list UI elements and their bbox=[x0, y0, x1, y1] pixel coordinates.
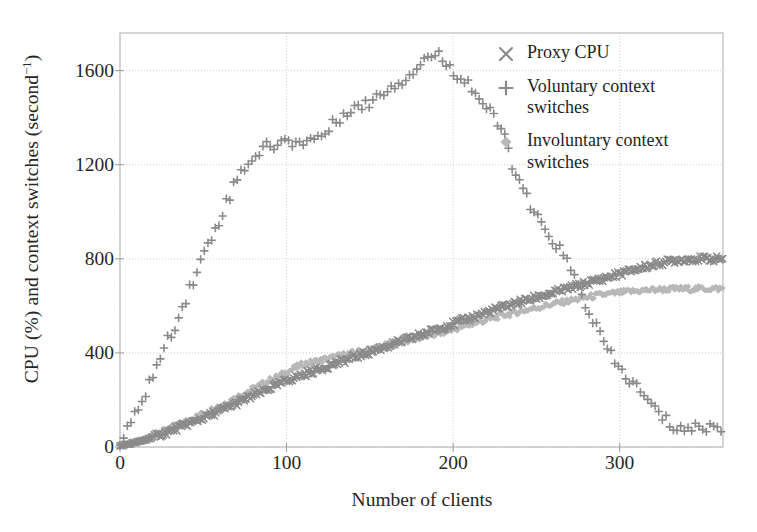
marker-plus bbox=[479, 100, 486, 107]
chart-legend: Proxy CPUVoluntary contextswitchesInvolu… bbox=[495, 42, 745, 185]
legend-label-line2: switches bbox=[527, 97, 655, 118]
marker-plus bbox=[171, 327, 178, 334]
legend-marker-plus-icon bbox=[495, 76, 525, 98]
marker-plus bbox=[190, 282, 197, 289]
marker-plus bbox=[677, 422, 684, 429]
marker-plus bbox=[124, 422, 131, 429]
marker-plus bbox=[552, 245, 559, 252]
marker-plus bbox=[443, 63, 450, 70]
marker-plus bbox=[384, 88, 391, 95]
marker-plus bbox=[256, 152, 263, 159]
marker-plus bbox=[160, 344, 167, 351]
marker-plus bbox=[600, 338, 607, 345]
marker-plus bbox=[410, 71, 417, 78]
marker-plus bbox=[596, 328, 603, 335]
legend-label-line2: switches bbox=[527, 152, 668, 173]
marker-plus bbox=[435, 48, 442, 55]
marker-plus bbox=[417, 61, 424, 68]
marker-plus bbox=[545, 233, 552, 240]
legend-item: Proxy CPU bbox=[495, 42, 745, 64]
marker-plus bbox=[607, 347, 614, 354]
marker-plus bbox=[193, 269, 200, 276]
marker-plus bbox=[347, 109, 354, 116]
marker-plus bbox=[281, 135, 288, 142]
series-proxy-cpu bbox=[117, 253, 726, 449]
legend-label: Proxy CPU bbox=[525, 42, 610, 63]
marker-diamond bbox=[501, 137, 512, 148]
legend-label: Involuntary contextswitches bbox=[525, 130, 668, 172]
marker-plus bbox=[278, 137, 285, 144]
series-involuntary-context-switches bbox=[117, 283, 726, 449]
marker-plus bbox=[549, 240, 556, 247]
marker-plus bbox=[637, 388, 644, 395]
marker-plus bbox=[684, 424, 691, 431]
marker-plus bbox=[487, 104, 494, 111]
marker-plus bbox=[135, 406, 142, 413]
marker-plus bbox=[476, 95, 483, 102]
marker-plus bbox=[241, 167, 248, 174]
marker-plus bbox=[219, 212, 226, 219]
marker-plus bbox=[582, 304, 589, 311]
marker-plus bbox=[252, 153, 259, 160]
marker-plus bbox=[127, 419, 134, 426]
marker-plus bbox=[439, 58, 446, 65]
marker-plus bbox=[640, 392, 647, 399]
marker-plus bbox=[274, 142, 281, 149]
marker-plus bbox=[428, 54, 435, 61]
marker-plus bbox=[604, 345, 611, 352]
legend-label-line1: Involuntary context bbox=[527, 130, 668, 151]
marker-plus bbox=[644, 396, 651, 403]
marker-plus bbox=[432, 52, 439, 59]
marker-plus bbox=[175, 314, 182, 321]
marker-plus bbox=[157, 355, 164, 362]
marker-plus bbox=[659, 416, 666, 423]
marker-plus bbox=[259, 143, 266, 150]
marker-plus bbox=[622, 375, 629, 382]
legend-marker-glyph bbox=[501, 137, 512, 148]
marker-plus bbox=[395, 80, 402, 87]
legend-item: Involuntary contextswitches bbox=[495, 130, 745, 172]
marker-plus bbox=[688, 427, 695, 434]
marker-plus bbox=[681, 428, 688, 435]
marker-plus bbox=[457, 75, 464, 82]
marker-plus bbox=[468, 88, 475, 95]
legend-label-line1: Voluntary context bbox=[527, 76, 655, 97]
marker-plus bbox=[263, 138, 270, 145]
marker-plus bbox=[541, 226, 548, 233]
marker-plus bbox=[585, 310, 592, 317]
marker-plus bbox=[131, 408, 138, 415]
marker-plus bbox=[142, 393, 149, 400]
legend-marker-glyph bbox=[500, 48, 512, 60]
marker-plus bbox=[413, 66, 420, 73]
marker-plus bbox=[421, 54, 428, 61]
legend-label-line1: Proxy CPU bbox=[527, 42, 610, 63]
marker-plus bbox=[450, 72, 457, 79]
marker-plus bbox=[197, 256, 204, 263]
marker-plus bbox=[472, 90, 479, 97]
marker-plus bbox=[285, 137, 292, 144]
marker-plus bbox=[520, 185, 527, 192]
marker-plus bbox=[662, 412, 669, 419]
marker-plus bbox=[673, 427, 680, 434]
marker-plus bbox=[153, 361, 160, 368]
marker-plus bbox=[500, 82, 513, 95]
marker-plus bbox=[446, 61, 453, 68]
legend-marker-x-icon bbox=[495, 42, 525, 64]
marker-plus bbox=[567, 267, 574, 274]
marker-plus bbox=[362, 97, 369, 104]
marker-plus bbox=[377, 91, 384, 98]
marker-plus bbox=[201, 247, 208, 254]
marker-plus bbox=[355, 101, 362, 108]
legend-marker-diamond-icon bbox=[495, 130, 525, 152]
marker-plus bbox=[311, 136, 318, 143]
marker-plus bbox=[358, 106, 365, 113]
marker-plus bbox=[538, 218, 545, 225]
marker-plus bbox=[369, 96, 376, 103]
marker-plus bbox=[571, 271, 578, 278]
marker-plus bbox=[226, 197, 233, 204]
marker-plus bbox=[483, 105, 490, 112]
chart-figure: CPU (%) and context switches (second−1) … bbox=[0, 0, 757, 532]
marker-plus bbox=[523, 190, 530, 197]
marker-plus bbox=[402, 77, 409, 84]
marker-plus bbox=[336, 119, 343, 126]
